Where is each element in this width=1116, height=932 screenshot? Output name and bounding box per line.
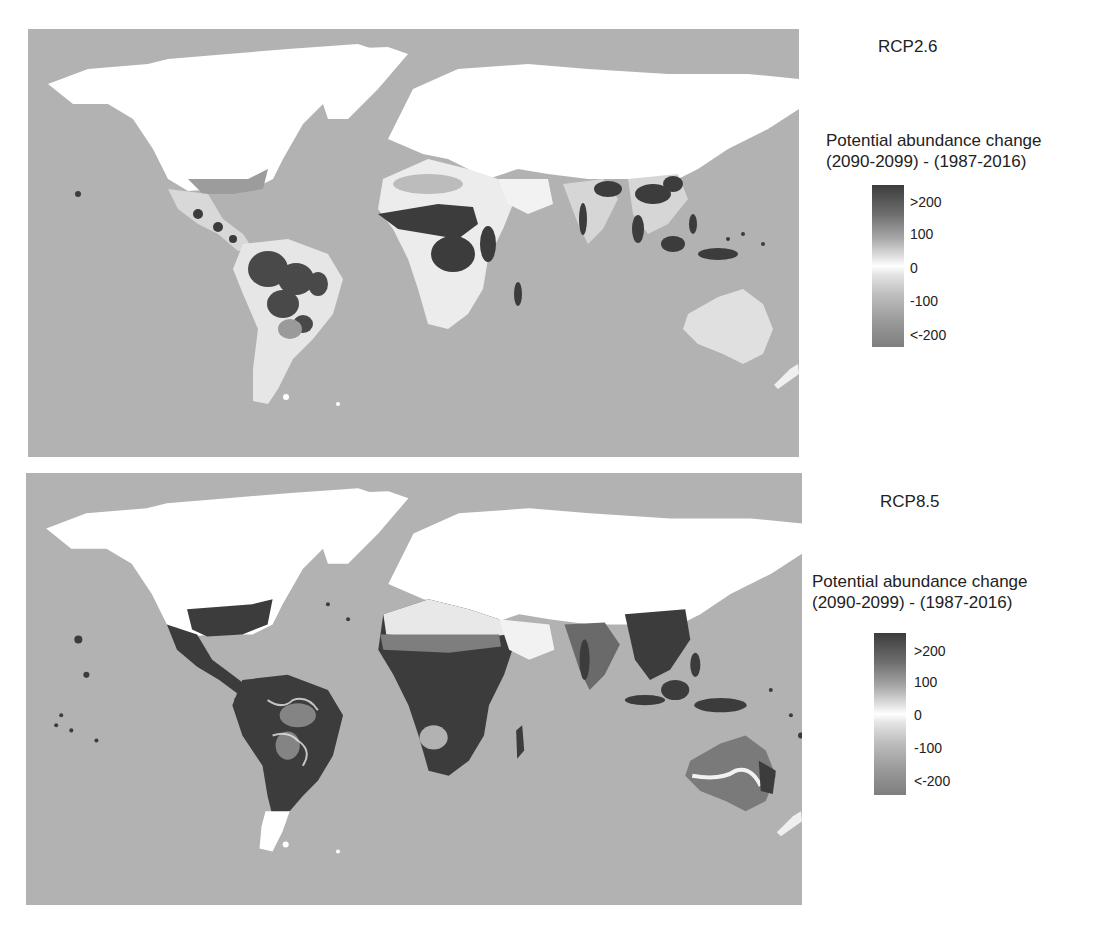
colorbar-tick: <-200 [910,327,946,343]
colorbar-tick: >200 [910,194,942,210]
colorbar [874,633,906,795]
colorbar-tick: 0 [910,260,918,276]
legend-title: Potential abundance change (2090-2099) -… [826,130,1042,172]
world-map-rcp26 [28,29,799,457]
map-graphic [26,473,802,905]
scenario-title: RCP2.6 [878,37,938,57]
land-australia [683,289,773,364]
colorbar-tick: >200 [914,643,946,659]
colorbar-tick: 100 [914,674,937,690]
legend-title: Potential abundance change (2090-2099) -… [812,571,1028,613]
land-south-asia [564,622,619,690]
colorbar-tick: <-200 [914,773,950,789]
colorbar [872,185,904,347]
colorbar-tick: -100 [910,293,938,309]
colorbar-tick: 100 [910,226,933,242]
colorbar-tick: 0 [914,707,922,723]
map-graphic [28,29,799,457]
world-map-rcp85 [26,473,802,905]
land-central-america [168,189,253,251]
colorbar-tick: -100 [914,740,942,756]
scenario-title: RCP8.5 [880,492,940,512]
